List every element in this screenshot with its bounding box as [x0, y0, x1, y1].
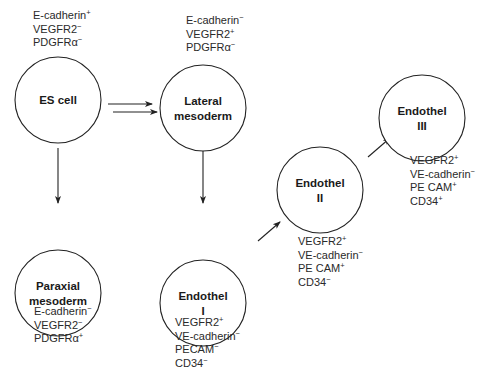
cell-label: I — [201, 305, 204, 317]
cell-circle — [277, 147, 363, 233]
marker-item: PE CAM+ — [298, 261, 345, 274]
marker-name: VEGFR2 — [34, 319, 78, 331]
marker-name: VEGFR2 — [410, 154, 454, 166]
marker-item: CD34− — [175, 356, 208, 368]
marker-name: VE-cadherin — [298, 249, 359, 261]
marker-item: VE-cadherin− — [175, 329, 241, 342]
marker-name: E-cadherin — [186, 14, 239, 26]
marker-item: PE CAM+ — [410, 180, 457, 193]
marker-item: CD34− — [298, 275, 331, 288]
marker-item: VE-cadherin− — [410, 167, 476, 180]
marker-item: PDGFRα− — [186, 40, 236, 53]
cell-label: III — [417, 120, 427, 132]
marker-item: VEGFR2− — [34, 318, 83, 331]
marker-name: PDGFRα — [33, 36, 79, 48]
marker-item: E-cadherin− — [34, 304, 92, 317]
marker-name: E-cadherin — [34, 305, 87, 317]
marker-name: VEGFR2 — [33, 23, 77, 35]
marker-sign: + — [86, 8, 91, 17]
marker-sign: + — [454, 153, 459, 162]
marker-item: CD34+ — [410, 194, 443, 207]
differentiation-diagram: ES cellLateralmesodermParaxialmesodermEn… — [0, 0, 486, 368]
marker-sign: − — [203, 356, 208, 365]
marker-sign: − — [78, 35, 83, 44]
cell-label: Lateral — [184, 95, 222, 107]
cell-label: Endothel — [295, 177, 344, 189]
marker-sign: + — [342, 234, 347, 243]
marker-name: VE-cadherin — [410, 168, 471, 180]
cell-endothel-ii: EndothelII — [277, 147, 363, 233]
marker-sign: − — [87, 304, 92, 313]
markers-endothel-ii: VEGFR2+VE-cadherin−PE CAM+CD34− — [298, 234, 364, 288]
cell-endothel-iii: EndothelIII — [379, 75, 465, 161]
marker-sign: + — [452, 180, 457, 189]
cell-circle — [160, 65, 246, 151]
marker-name: PE CAM — [298, 262, 340, 274]
marker-name: VEGFR2 — [175, 316, 219, 328]
marker-sign: − — [77, 22, 82, 31]
marker-blocks: E-cadherin+VEGFR2−PDGFRα−E-cadherin−VEGF… — [33, 8, 476, 368]
marker-item: VEGFR2− — [33, 22, 82, 35]
markers-lateral-mesoderm: E-cadherin−VEGFR2+PDGFRα− — [186, 13, 244, 53]
cell-label: ES cell — [39, 94, 77, 106]
marker-item: VE-cadherin− — [298, 248, 364, 261]
marker-sign: + — [340, 261, 345, 270]
marker-name: PE CAM — [410, 181, 452, 193]
arrow-endothel-i-to-ii — [258, 222, 280, 241]
marker-sign: + — [219, 315, 224, 324]
marker-sign: − — [359, 248, 364, 257]
cell-label: II — [317, 192, 323, 204]
marker-name: VEGFR2 — [298, 235, 342, 247]
marker-item: E-cadherin− — [186, 13, 244, 26]
marker-name: VE-cadherin — [175, 330, 236, 342]
cell-label: Endothel — [397, 105, 446, 117]
marker-sign: + — [230, 27, 235, 36]
marker-sign: − — [236, 329, 241, 338]
markers-endothel-iii: VEGFR2+VE-cadherin−PE CAM+CD34+ — [410, 153, 476, 207]
marker-item: VEGFR2+ — [298, 234, 347, 247]
cell-label: mesoderm — [174, 110, 232, 122]
marker-name: PDGFRα — [186, 41, 232, 53]
marker-name: CD34 — [410, 195, 438, 207]
marker-sign: − — [471, 167, 476, 176]
cell-label: Paraxial — [36, 280, 80, 292]
marker-sign: − — [78, 318, 83, 327]
marker-sign: − — [214, 342, 219, 351]
markers-es-cell: E-cadherin+VEGFR2−PDGFRα− — [33, 8, 91, 48]
marker-item: VEGFR2+ — [186, 27, 235, 40]
marker-item: PECAM− — [175, 342, 219, 355]
marker-sign: − — [326, 275, 331, 284]
marker-sign: − — [231, 40, 236, 49]
marker-name: E-cadherin — [33, 9, 86, 21]
marker-item: PDGFRα− — [33, 35, 83, 48]
cells: ES cellLateralmesodermParaxialmesodermEn… — [15, 57, 465, 346]
marker-item: VEGFR2+ — [410, 153, 459, 166]
cell-es-cell: ES cell — [15, 57, 101, 143]
marker-item: E-cadherin+ — [33, 8, 91, 21]
marker-item: VEGFR2+ — [175, 315, 224, 328]
marker-name: PDGFRα — [34, 332, 80, 344]
cell-lateral-mesoderm: Lateralmesoderm — [160, 65, 246, 151]
marker-sign: − — [239, 13, 244, 22]
cell-label: Endothel — [178, 290, 227, 302]
marker-name: CD34 — [298, 276, 326, 288]
marker-name: PECAM — [175, 343, 214, 355]
marker-name: VEGFR2 — [186, 28, 230, 40]
marker-sign: + — [438, 194, 443, 203]
marker-sign: + — [79, 331, 84, 340]
cell-circle — [379, 75, 465, 161]
marker-name: CD34 — [175, 357, 203, 368]
marker-item: PDGFRα+ — [34, 331, 84, 344]
